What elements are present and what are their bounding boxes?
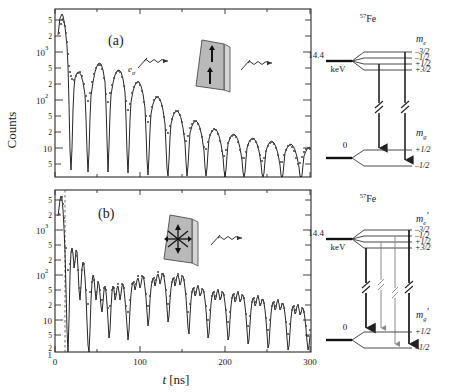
ytick-a-100-exp: 2	[45, 92, 48, 99]
break-mark-b-2	[378, 279, 384, 290]
outgoing-beam-b-icon	[218, 237, 242, 240]
ground-energy-a: 0	[343, 140, 348, 150]
panel-b-inset	[164, 215, 242, 266]
panel-b-label: (b)	[98, 206, 115, 222]
excited-sublevel-labels-a: –3/2 –1/2 +1/2 +3/2	[414, 47, 431, 74]
polarization-tick-a-out	[241, 60, 250, 70]
ytick-b-1000-exp: 3	[45, 222, 48, 229]
y-axis-title: Counts	[4, 112, 19, 149]
ytick-a-20: 2	[48, 128, 52, 137]
xtick-300: 300	[303, 357, 317, 367]
panel-a-plot	[58, 14, 311, 178]
xtick-0: 0	[53, 357, 58, 367]
x-axis-title: t[ns]	[163, 372, 190, 387]
ytick-b-100-exp: 2	[45, 267, 48, 274]
panel-a-frame	[55, 9, 311, 177]
polarization-tick-b-out	[211, 235, 220, 245]
ytick-a-200: 2	[48, 80, 52, 89]
panel-a-theory-curve	[58, 14, 310, 178]
ytick-b-10: 10	[43, 316, 53, 326]
ground-sublevel-labels-b: +1/2 –1/2	[414, 327, 431, 352]
me-prime-label-b-3: +3/2	[415, 243, 431, 252]
ytick-b-50: 5	[48, 286, 52, 295]
panel-a-data-points	[58, 18, 311, 165]
y-axis-label: Counts	[4, 112, 19, 149]
ground-energy-b: 0	[343, 322, 348, 332]
me-label-a-3: +3/2	[415, 65, 431, 74]
panel-a-label: (a)	[108, 33, 124, 49]
panel-b-y-ticklabels: 5 2 10 3 5 2 10 2 5 2 10 5 2 1	[36, 196, 53, 360]
crystal-slab-b-side	[192, 219, 198, 266]
x-axis-ticklabels: 0 100 200 300	[53, 357, 318, 367]
ground-fan-a	[352, 150, 412, 166]
mg-label-a: mg	[416, 127, 427, 140]
ytick-a-5: 5	[48, 160, 52, 169]
polarization-tick-a	[138, 58, 147, 68]
me-prime-label-b: me′	[416, 210, 429, 226]
outgoing-beam-a-icon	[248, 62, 272, 65]
ytick-b-20: 2	[48, 301, 52, 310]
excited-energy-a: 14.4	[308, 50, 324, 60]
ytick-a-2000: 2	[48, 32, 52, 41]
ytick-b-1: 1	[48, 350, 53, 360]
me-label-a: me	[416, 33, 426, 46]
ytick-b-500: 5	[48, 241, 52, 250]
ytick-a-500: 5	[48, 64, 52, 73]
break-mark-b-3	[392, 287, 398, 298]
ytick-b-200: 2	[48, 256, 52, 265]
excited-fan-a	[352, 52, 412, 70]
panel-b-frame	[55, 190, 311, 352]
isotope-label-b: 57Fe	[360, 192, 377, 204]
excited-unit-a: keV	[331, 64, 346, 74]
level-diagram-b: 57Fe me′ 14.4 keV –3/2 –1/2 +1/2 +3/2	[308, 192, 430, 352]
excited-energy-b: 14.4	[308, 228, 324, 238]
mg-prime-label-b: mg′	[416, 306, 429, 322]
xtick-200: 200	[218, 357, 232, 367]
excited-unit-b: keV	[331, 242, 346, 252]
figure-root: Counts 5 2 10 3 5 2 10 2 5 2 10 5	[0, 0, 453, 392]
panel-a-x-ticks	[55, 9, 310, 177]
ytick-b-5: 5	[48, 331, 52, 340]
panel-b-x-ticks	[55, 190, 310, 352]
x-axis-label: t[ns]	[163, 372, 190, 387]
ground-fan-b	[352, 332, 412, 348]
panel-b-data-points	[58, 196, 311, 337]
mg-prime-label-b-1: –1/2	[414, 343, 429, 352]
ytick-b-5000: 5	[48, 196, 52, 205]
panel-a-inset: eσ	[128, 40, 272, 92]
ytick-a-50: 5	[48, 112, 52, 121]
e-sigma-label: eσ	[128, 64, 136, 76]
excited-fan-b	[352, 230, 412, 248]
ytick-a-5000: 5	[48, 16, 52, 25]
panel-a-y-ticklabels: 5 2 10 3 5 2 10 2 5 2 10 5	[36, 16, 53, 169]
figure-svg: Counts 5 2 10 3 5 2 10 2 5 2 10 5	[0, 0, 453, 392]
mg-label-a-0: +1/2	[415, 145, 431, 154]
ytick-a-1000-exp: 3	[45, 44, 48, 51]
level-diagram-a: 57Fe me 14.4 keV –3/2 –1/2 +1/2 +3/2	[308, 12, 430, 170]
ytick-b-2000: 2	[48, 211, 52, 220]
transitions-a	[375, 52, 409, 160]
mg-label-a-1: –1/2	[414, 161, 429, 170]
incoming-beam-a-icon	[144, 60, 168, 63]
ytick-a-10: 10	[43, 144, 53, 154]
transitions-b	[362, 230, 413, 344]
ground-sublevel-labels-a: +1/2 –1/2	[414, 145, 431, 170]
isotope-label-a: 57Fe	[360, 12, 377, 24]
xtick-100: 100	[133, 357, 147, 367]
mg-prime-label-b-0: +1/2	[415, 327, 431, 336]
crystal-slab-a-side	[224, 44, 230, 92]
excited-sublevel-labels-b: –3/2 –1/2 +1/2 +3/2	[414, 225, 431, 252]
